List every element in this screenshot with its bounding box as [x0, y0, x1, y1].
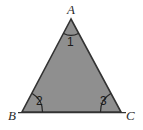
angle-number-1: 1: [67, 36, 74, 48]
vertex-label-c: C: [126, 109, 135, 122]
vertex-label-b: B: [8, 109, 16, 122]
triangle-diagram-svg: [0, 0, 143, 130]
triangle-figure: A B C 1 2 3: [0, 0, 143, 130]
angle-number-3: 3: [100, 95, 107, 107]
angle-number-2: 2: [36, 95, 43, 107]
vertex-label-a: A: [67, 3, 75, 16]
